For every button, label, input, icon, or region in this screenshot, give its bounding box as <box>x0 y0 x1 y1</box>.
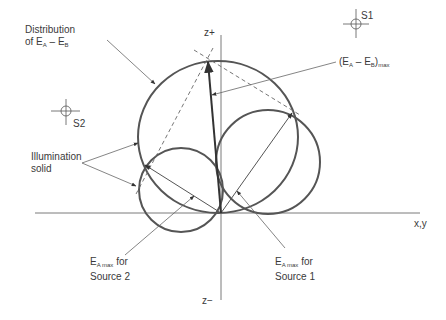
leader-distribution <box>107 40 155 84</box>
vector-source1-eamax <box>221 113 292 213</box>
source-s1-label: S1 <box>361 10 373 22</box>
source1-eamax-label: EA max for Source 1 <box>275 256 315 283</box>
illumination-solid-label: Illumination solid <box>31 151 82 175</box>
source2-illumination-solid <box>139 148 223 232</box>
max-sub: max <box>378 62 389 68</box>
leader-source2 <box>125 196 194 255</box>
ea-eb-max-label: (EA – EB)max <box>339 56 390 71</box>
vector-ea-eb-max <box>208 62 221 213</box>
illumination-line2: solid <box>31 163 82 175</box>
distribution-text: of E <box>25 36 43 47</box>
illumination-line1: Illumination <box>31 151 82 163</box>
source1-for: for <box>298 256 312 267</box>
source1-sub: A max <box>282 262 299 268</box>
axis-z-plus-label: z+ <box>204 27 215 39</box>
leader-ea-eb-max <box>212 62 336 95</box>
distribution-label: Distribution of EA – EB <box>25 24 75 51</box>
distribution-minus: – E <box>47 36 65 47</box>
source2-for: for <box>113 256 127 267</box>
max-minus: – E <box>353 56 371 67</box>
axis-z-minus-label: z− <box>202 295 213 307</box>
leader-illumination-upper <box>82 143 138 163</box>
source2-sub: A max <box>97 262 114 268</box>
max-prefix: (E <box>339 56 349 67</box>
distribution-label-line1: Distribution <box>25 24 75 36</box>
distribution-label-line2: of EA – EB <box>25 36 75 51</box>
source2-eamax-label: EA max for Source 2 <box>90 256 130 283</box>
source-s2-label: S2 <box>73 118 85 130</box>
source2-e: E <box>90 256 97 267</box>
source1-line2: Source 1 <box>275 271 315 283</box>
dashed-line-source2 <box>135 48 213 196</box>
source1-e: E <box>275 256 282 267</box>
source2-line2: Source 2 <box>90 271 130 283</box>
distribution-sub-b: B <box>65 42 69 48</box>
leader-source1 <box>237 191 285 248</box>
leader-illumination-lower <box>82 163 136 186</box>
source1-line1: EA max for <box>275 256 315 271</box>
source2-line1: EA max for <box>90 256 130 271</box>
axis-xy-label: x,y <box>414 218 427 230</box>
distribution-ea-eb-curve <box>138 61 298 213</box>
